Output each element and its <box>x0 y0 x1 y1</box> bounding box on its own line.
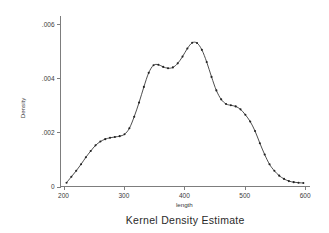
kernel-density-figure: 0.002.004.006 200300400500600 length Den… <box>0 0 329 233</box>
data-point-marker <box>152 64 154 66</box>
x-ticks-group: 200300400500600 <box>58 187 311 200</box>
data-point-marker <box>128 127 130 129</box>
data-point-marker <box>278 175 280 177</box>
data-point-marker <box>283 178 285 180</box>
data-point-marker <box>244 114 246 116</box>
data-point-marker <box>206 61 208 63</box>
y-tick-label: 0 <box>51 183 55 190</box>
data-point-marker <box>297 182 299 184</box>
data-point-marker <box>172 66 174 68</box>
data-point-marker <box>264 154 266 156</box>
data-point-marker <box>114 136 116 138</box>
data-point-marker <box>239 108 241 110</box>
chart-title: Kernel Density Estimate <box>126 214 245 226</box>
data-point-marker <box>220 98 222 100</box>
data-point-marker <box>181 56 183 58</box>
data-point-marker <box>293 181 295 183</box>
data-point-marker <box>148 72 150 74</box>
data-point-marker <box>104 138 106 140</box>
data-point-marker <box>235 105 237 107</box>
y-tick-label: .002 <box>42 129 55 136</box>
data-point-marker <box>196 42 198 44</box>
x-tick-label: 200 <box>58 192 69 199</box>
y-tick-label: .006 <box>42 21 55 28</box>
data-point-marker <box>90 150 92 152</box>
data-point-marker <box>225 103 227 105</box>
chart-canvas: 0.002.004.006 200300400500600 length Den… <box>0 0 329 233</box>
x-tick-label: 300 <box>119 192 130 199</box>
axes-group <box>61 16 311 187</box>
data-point-marker <box>302 182 304 184</box>
y-ticks-group: 0.002.004.006 <box>42 21 61 190</box>
data-point-marker <box>254 130 256 132</box>
data-point-marker <box>167 67 169 69</box>
data-point-marker <box>119 135 121 137</box>
x-tick-label: 400 <box>179 192 190 199</box>
data-point-marker <box>186 47 188 49</box>
density-curve <box>67 42 304 183</box>
data-point-marker <box>259 142 261 144</box>
data-point-marker <box>157 64 159 66</box>
data-point-marker <box>80 163 82 165</box>
x-tick-label: 500 <box>239 192 250 199</box>
data-point-marker <box>249 121 251 123</box>
data-point-marker <box>201 49 203 51</box>
data-point-marker <box>210 76 212 78</box>
y-tick-label: .004 <box>42 75 55 82</box>
y-axis-title: Density <box>19 97 26 119</box>
data-point-marker <box>288 180 290 182</box>
data-point-marker <box>109 137 111 139</box>
data-point-marker <box>94 144 96 146</box>
x-tick-label: 600 <box>300 192 311 199</box>
data-point-marker <box>70 176 72 178</box>
data-point-marker <box>138 102 140 104</box>
data-point-marker <box>99 141 101 143</box>
x-axis-title: length <box>176 201 193 208</box>
data-point-marker <box>65 182 67 184</box>
data-point-marker <box>191 42 193 44</box>
data-point-marker <box>133 116 135 118</box>
data-point-marker <box>75 170 77 172</box>
data-point-marker <box>123 133 125 135</box>
data-point-marker <box>273 170 275 172</box>
data-point-marker <box>230 104 232 106</box>
data-point-marker <box>162 66 164 68</box>
data-point-marker <box>268 163 270 165</box>
data-point-marker <box>85 156 87 158</box>
data-point-marker <box>215 89 217 91</box>
data-point-marker <box>177 62 179 64</box>
data-point-marker <box>143 86 145 88</box>
